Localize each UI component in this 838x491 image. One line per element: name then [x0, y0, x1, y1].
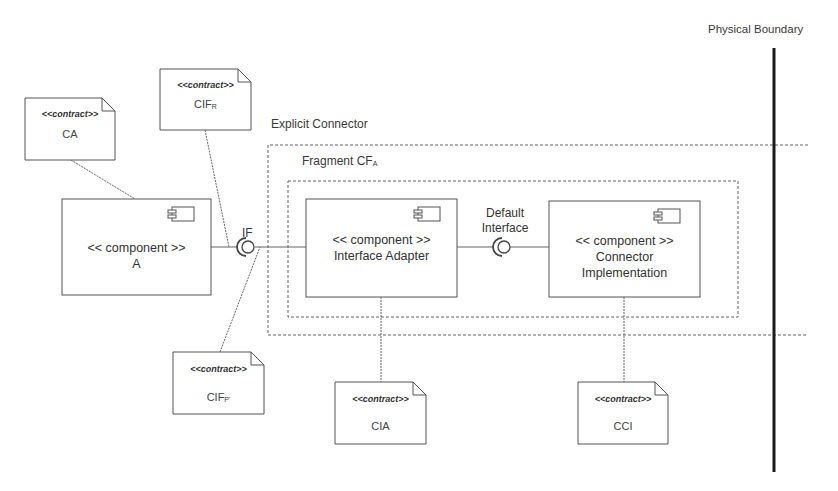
connector-implementation-name-line2: Implementation: [549, 265, 700, 281]
fragment-label-text: Fragment CF: [302, 154, 373, 168]
connector-implementation-stereotype: << component >>: [549, 233, 700, 249]
note-ca-name: CA: [25, 128, 115, 140]
default-interface-label-line1: Default: [470, 206, 540, 221]
physical-boundary-label: Physical Boundary: [708, 23, 803, 35]
default-interface-label: Default Interface: [470, 206, 540, 236]
note-cia-stereotype: <<contract>>: [335, 394, 426, 404]
component-a-stereotype: << component >>: [62, 240, 211, 256]
if-label: IF: [242, 226, 253, 240]
explicit-connector-label: Explicit Connector: [271, 117, 368, 131]
note-cci-name: CCI: [578, 420, 668, 432]
default-interface-label-line2: Interface: [470, 221, 540, 236]
note-cif-r-name: CIFR: [160, 98, 251, 110]
fragment-label-sub: A: [373, 160, 378, 167]
interface-adapter-stereotype: << component >>: [306, 232, 457, 248]
link-cif-p: [220, 247, 260, 352]
interface-adapter-text: << component >> Interface Adapter: [306, 232, 457, 264]
note-cif-p[interactable]: [173, 352, 264, 414]
component-icon: [414, 207, 440, 221]
note-cif-p-stereotype: <<contract>>: [173, 364, 264, 374]
connector-implementation-text: << component >> Connector Implementation: [549, 233, 700, 281]
if-interface-symbol[interactable]: [237, 238, 254, 256]
note-cif-r-sub: R: [212, 103, 217, 110]
link-ca: [71, 160, 135, 199]
note-cif-p-sub: P': [224, 396, 230, 403]
note-cif-p-name-text: CIF: [207, 391, 225, 403]
note-cci[interactable]: [578, 382, 668, 444]
fragment-label: Fragment CFA: [302, 154, 377, 168]
component-icon: [654, 209, 680, 223]
note-cia[interactable]: [335, 382, 426, 444]
note-ca-name-text: CA: [62, 128, 77, 140]
component-icon: [168, 207, 194, 221]
note-cif-r-name-text: CIF: [194, 98, 212, 110]
note-cci-name-text: CCI: [614, 420, 633, 432]
note-ca-stereotype: <<contract>>: [25, 109, 115, 119]
default-interface-symbol[interactable]: [493, 238, 510, 256]
note-cci-stereotype: <<contract>>: [578, 394, 668, 404]
note-cif-p-name: CIFP': [173, 391, 264, 403]
interface-adapter-name: Interface Adapter: [306, 248, 457, 264]
note-cia-name-text: CIA: [371, 420, 389, 432]
component-a-text: << component >> A: [62, 240, 211, 272]
connector-implementation-name-line1: Connector: [549, 249, 700, 265]
component-a-name: A: [62, 256, 211, 272]
note-cif-r-stereotype: <<contract>>: [160, 80, 251, 90]
note-cia-name: CIA: [335, 420, 426, 432]
